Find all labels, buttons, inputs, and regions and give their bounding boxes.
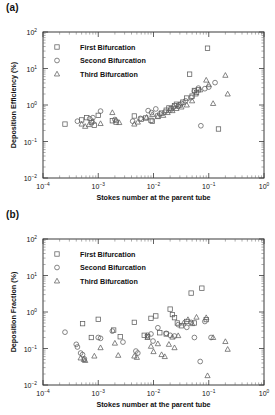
- data-point-circle: [155, 325, 160, 330]
- data-point-square: [132, 114, 136, 118]
- data-point-circle: [135, 351, 140, 356]
- figure-container: (a) 10−410−310−210−110010−210−1100101102…: [0, 0, 275, 415]
- data-point-triangle: [92, 353, 97, 358]
- y-tick-label: 100: [27, 101, 38, 109]
- legend-marker-square: [55, 252, 59, 256]
- plot-frame: [43, 239, 264, 385]
- data-point-square: [158, 331, 162, 335]
- x-tick-label: 10−2: [147, 389, 161, 397]
- x-tick-label: 10−2: [147, 182, 161, 190]
- y-tick-label: 102: [27, 235, 38, 243]
- legend-marker-square: [55, 45, 59, 49]
- x-tick-label: 100: [259, 389, 270, 397]
- panel-b: (b) 10−410−310−210−110010−210−1100101102…: [0, 207, 275, 414]
- y-tick-label: 10−2: [24, 174, 38, 182]
- data-point-square: [216, 127, 220, 131]
- legend-marker-circle: [55, 58, 60, 63]
- data-point-square: [80, 321, 84, 325]
- data-point-triangle: [190, 98, 195, 103]
- legend-label: Second Bifurcation: [80, 263, 146, 272]
- panel-b-plot: 10−410−310−210−110010−210−1100101102Firs…: [0, 207, 275, 414]
- series-circle: [75, 80, 217, 128]
- x-tick-label: 10−1: [202, 389, 216, 397]
- y-tick-label: 100: [27, 308, 38, 316]
- x-tick-label: 10−4: [36, 389, 50, 397]
- panel-a: (a) 10−410−310−210−110010−210−1100101102…: [0, 0, 275, 207]
- data-point-circle: [153, 107, 158, 112]
- legend-label: First Bifurcation: [80, 250, 136, 259]
- plot-frame: [43, 32, 264, 178]
- y-tick-label: 101: [27, 65, 38, 73]
- legend-label: Third Bifurcation: [80, 70, 138, 79]
- data-point-triangle: [225, 91, 230, 96]
- data-point-triangle: [223, 73, 228, 78]
- data-point-square: [85, 115, 89, 119]
- legend-label: First Bifurcation: [80, 43, 136, 52]
- legend-label: Third Bifurcation: [80, 277, 138, 286]
- data-point-triangle: [98, 345, 103, 350]
- data-point-square: [89, 335, 93, 339]
- data-point-square: [63, 122, 67, 126]
- data-point-circle: [184, 325, 189, 330]
- y-tick-label: 10−1: [24, 345, 38, 353]
- data-point-triangle: [211, 101, 216, 106]
- data-point-square: [205, 46, 209, 50]
- data-point-triangle: [225, 347, 230, 352]
- data-point-circle: [192, 335, 197, 340]
- data-point-triangle: [194, 314, 199, 319]
- y-tick-label: 101: [27, 272, 38, 280]
- x-axis-title: Stokes number at the parent tube: [96, 193, 210, 202]
- data-point-triangle: [151, 349, 156, 354]
- data-point-triangle: [98, 121, 103, 126]
- data-point-triangle: [172, 345, 177, 350]
- y-tick-label: 102: [27, 28, 38, 36]
- legend-marker-circle: [55, 265, 60, 270]
- data-point-circle: [91, 115, 96, 120]
- x-axis-title: Stokes number at the parent tube: [96, 400, 210, 409]
- data-point-circle: [198, 123, 203, 128]
- data-point-square: [132, 320, 136, 324]
- data-point-square: [118, 335, 122, 339]
- data-point-square: [187, 72, 191, 76]
- x-tick-label: 10−4: [36, 182, 50, 190]
- legend-marker-triangle: [54, 71, 59, 76]
- data-point-triangle: [110, 110, 115, 115]
- data-point-square: [168, 307, 172, 311]
- data-point-square: [92, 123, 96, 127]
- data-point-square: [96, 317, 100, 321]
- x-tick-label: 10−3: [92, 182, 106, 190]
- data-point-triangle: [206, 82, 211, 87]
- y-axis-title: Deposition Efficiency (%): [9, 61, 18, 148]
- data-point-square: [149, 316, 153, 320]
- legend-label: Second Bifurcation: [80, 56, 146, 65]
- y-tick-label: 10−1: [24, 138, 38, 146]
- data-point-circle: [121, 340, 126, 345]
- data-point-circle: [110, 329, 115, 334]
- data-point-square: [189, 291, 193, 295]
- series-square: [80, 286, 208, 340]
- data-point-circle: [98, 109, 103, 114]
- data-point-square: [154, 314, 158, 318]
- data-point-triangle: [223, 339, 228, 344]
- data-point-triangle: [204, 77, 209, 82]
- data-point-triangle: [148, 344, 153, 349]
- data-point-triangle: [135, 119, 140, 124]
- y-tick-label: 10−2: [24, 381, 38, 389]
- x-tick-label: 10−3: [92, 389, 106, 397]
- data-point-triangle: [112, 340, 117, 345]
- data-point-circle: [134, 349, 139, 354]
- y-axis-title: Deposition Fraction (%): [9, 271, 18, 352]
- x-tick-label: 10−1: [202, 182, 216, 190]
- data-point-circle: [63, 330, 68, 335]
- data-point-square: [96, 113, 100, 117]
- data-point-triangle: [155, 341, 160, 346]
- data-point-triangle: [166, 342, 171, 347]
- legend-marker-triangle: [54, 278, 59, 283]
- data-point-triangle: [144, 115, 149, 120]
- data-point-square: [200, 286, 204, 290]
- data-point-triangle: [205, 373, 210, 378]
- data-point-circle: [213, 80, 218, 85]
- panel-a-plot: 10−410−310−210−110010−210−1100101102Firs…: [0, 0, 275, 207]
- data-point-circle: [198, 359, 203, 364]
- series-triangle: [78, 314, 230, 377]
